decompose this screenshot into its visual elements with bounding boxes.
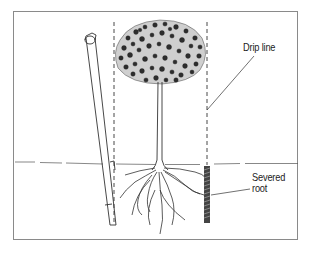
drip-line-label: Drip line: [243, 42, 275, 53]
tree-roots-icon: [120, 168, 207, 234]
severed-root-label-line2: root: [252, 183, 267, 194]
tree-illustration: [0, 0, 312, 253]
stake-icon: [85, 33, 116, 225]
tree-trunk-icon: [152, 82, 168, 170]
leader-lines: [207, 56, 254, 195]
severed-root-icon: [204, 166, 210, 223]
tree-canopy-icon: [115, 20, 205, 84]
